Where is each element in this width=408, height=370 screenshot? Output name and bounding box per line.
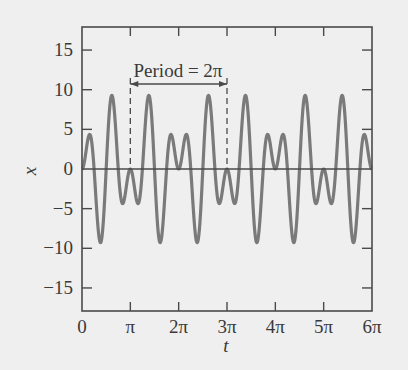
line-chart: 0π2π3π4π5π6π 151050−5−10−15 t x Period =… <box>0 0 408 370</box>
y-tick-label: 5 <box>64 118 74 139</box>
x-tick-label: 5π <box>314 316 334 337</box>
y-tick-label: 15 <box>54 39 73 60</box>
arrow-left-icon <box>130 81 138 87</box>
x-tick-label: π <box>126 316 136 337</box>
x-tick-label: 3π <box>217 316 237 337</box>
y-tick-label: −5 <box>53 198 73 219</box>
x-tick-label: 0 <box>77 316 87 337</box>
y-tick-label: −10 <box>43 237 73 258</box>
period-label: Period = 2π <box>134 60 223 81</box>
y-tick-label: 0 <box>64 158 74 179</box>
y-tick-label: −15 <box>43 277 73 298</box>
y-axis-label: x <box>19 166 40 176</box>
x-tick-label: 6π <box>362 316 382 337</box>
chart: 0π2π3π4π5π6π 151050−5−10−15 t x Period =… <box>0 0 408 370</box>
x-axis-label: t <box>223 335 229 356</box>
x-tick-label: 2π <box>169 316 189 337</box>
y-tick-label: 10 <box>54 79 73 100</box>
arrow-right-icon <box>219 81 227 87</box>
x-tick-label: 4π <box>266 316 286 337</box>
